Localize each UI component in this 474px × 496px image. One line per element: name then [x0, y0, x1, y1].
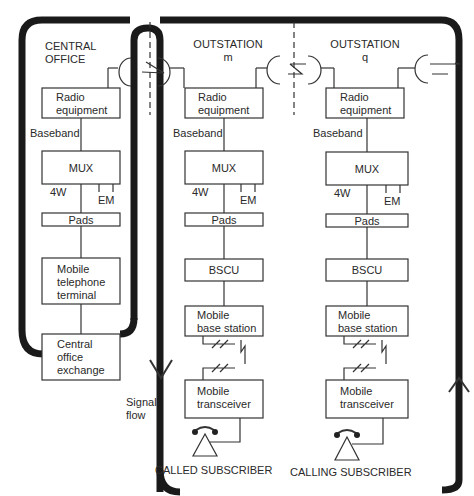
- svg-text:EM: EM: [240, 194, 257, 206]
- radio-link-icon: [203, 336, 245, 380]
- svg-text:Mobile: Mobile: [197, 309, 229, 321]
- svg-text:base station: base station: [338, 322, 397, 334]
- svg-text:EM: EM: [98, 194, 115, 206]
- svg-text:transceiver: transceiver: [340, 398, 394, 410]
- baseband-label: Baseband: [30, 127, 80, 139]
- outstation-m-column: Radio equipment Baseband MUX 4W EM Pads …: [173, 88, 263, 456]
- calling-subscriber-label: CALLING SUBSCRIBER: [290, 466, 412, 478]
- mobile-radio-signal-flow-diagram: CENTRAL OFFICE OUTSTATION m OUTSTATION q…: [0, 0, 474, 496]
- signal-flow-path-co-return: [120, 318, 134, 334]
- svg-text:EM: EM: [384, 195, 401, 207]
- svg-text:base station: base station: [197, 322, 256, 334]
- svg-text:telephone: telephone: [57, 276, 105, 288]
- svg-text:equipment: equipment: [198, 104, 249, 116]
- signal-flow-label-1: Signal: [126, 396, 157, 408]
- svg-text:exchange: exchange: [57, 364, 105, 376]
- outstation-q-title-2: q: [362, 51, 368, 63]
- svg-text:Mobile: Mobile: [340, 385, 372, 397]
- svg-text:Pads: Pads: [211, 214, 237, 226]
- svg-text:terminal: terminal: [57, 289, 96, 301]
- svg-text:Radio: Radio: [340, 91, 369, 103]
- outstation-q-column: Radio equipment Baseband MUX 4W EM Pads …: [313, 88, 408, 460]
- svg-text:Mobile: Mobile: [57, 263, 89, 275]
- called-subscriber-label: CALLED SUBSCRIBER: [155, 464, 272, 476]
- svg-text:Pads: Pads: [354, 215, 380, 227]
- svg-text:4W: 4W: [50, 186, 67, 198]
- svg-text:MUX: MUX: [212, 162, 237, 174]
- svg-text:4W: 4W: [192, 186, 209, 198]
- svg-text:BSCU: BSCU: [209, 264, 240, 276]
- outstation-m-title-2: m: [223, 51, 232, 63]
- svg-text:Central: Central: [57, 338, 92, 350]
- svg-text:4W: 4W: [334, 187, 351, 199]
- antenna-icon: [108, 58, 184, 88]
- central-office-title-2: OFFICE: [45, 53, 85, 65]
- outstation-m-title-1: OUTSTATION: [193, 38, 262, 50]
- central-office-title-1: CENTRAL: [45, 40, 96, 52]
- svg-text:Radio: Radio: [198, 91, 227, 103]
- svg-text:Mobile: Mobile: [338, 309, 370, 321]
- svg-text:transceiver: transceiver: [197, 398, 251, 410]
- svg-text:MUX: MUX: [355, 163, 380, 175]
- svg-text:Mobile: Mobile: [197, 385, 229, 397]
- svg-text:BSCU: BSCU: [352, 264, 383, 276]
- svg-text:Pads: Pads: [68, 214, 94, 226]
- svg-text:office: office: [57, 351, 83, 363]
- signal-flow-path-co-loop: [130, 20, 160, 492]
- baseband-label: Baseband: [173, 127, 223, 139]
- signal-flow-label-2: flow: [126, 409, 146, 421]
- svg-text:MUX: MUX: [69, 162, 94, 174]
- telephone-icon: [334, 430, 360, 460]
- svg-text:Radio: Radio: [56, 91, 85, 103]
- svg-text:equipment: equipment: [56, 104, 107, 116]
- radio-link-icon: [344, 336, 386, 380]
- svg-text:equipment: equipment: [340, 104, 391, 116]
- central-office-column: Radio equipment Baseband MUX 4W EM Pads …: [30, 88, 120, 380]
- baseband-label: Baseband: [313, 127, 363, 139]
- antenna-icon: [398, 55, 460, 88]
- outstation-q-title-1: OUTSTATION: [330, 38, 399, 50]
- antenna-icon: [256, 56, 334, 88]
